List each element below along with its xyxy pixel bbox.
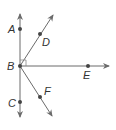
label-c: C	[8, 97, 16, 109]
label-e: E	[83, 69, 91, 81]
point-b	[18, 64, 22, 68]
point-a	[18, 27, 22, 31]
point-c	[18, 100, 22, 104]
geometry-diagram: A B C D E F	[0, 0, 116, 130]
point-e	[86, 64, 90, 68]
label-f: F	[44, 85, 52, 97]
point-f	[38, 95, 42, 99]
label-a: A	[7, 23, 15, 35]
label-b: B	[7, 60, 14, 72]
label-d: D	[42, 36, 50, 48]
